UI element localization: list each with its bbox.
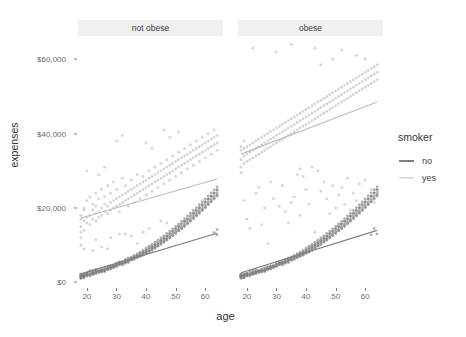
- fit-line-yes: [241, 102, 377, 154]
- x-axis-tick-mark: [176, 288, 177, 291]
- x-axis-tick-label: 30: [272, 292, 281, 301]
- facet-panel: [78, 37, 223, 288]
- legend-line-swatch-icon: [398, 154, 415, 168]
- x-axis-tick-label: 60: [361, 292, 370, 301]
- y-axis-tick-label: $60,000: [8, 55, 66, 64]
- y-axis-tick-mark: [74, 133, 77, 134]
- x-axis-tick-mark: [87, 288, 88, 291]
- fit-line-no: [81, 233, 217, 274]
- x-axis-tick-label: 50: [331, 292, 340, 301]
- x-axis-tick-mark: [247, 288, 248, 291]
- legend-item-yes[interactable]: yes: [398, 169, 464, 186]
- legend: smoker noyes: [398, 131, 464, 186]
- x-axis-tick-label: 40: [142, 292, 151, 301]
- x-axis-tick-mark: [116, 288, 117, 291]
- x-axis-tick-label: 50: [171, 292, 180, 301]
- series-yes: [80, 129, 219, 253]
- series-no: [240, 185, 379, 279]
- y-axis-tick-label: $0: [8, 278, 66, 287]
- y-axis-tick-mark: [74, 59, 77, 60]
- x-axis-tick-label: 20: [82, 292, 91, 301]
- fit-line-no: [241, 230, 377, 272]
- series-yes: [240, 43, 379, 245]
- legend-line-swatch-icon: [398, 171, 415, 185]
- facet-strip-label: obese: [238, 20, 383, 36]
- legend-item-label: no: [422, 156, 432, 166]
- x-axis-tick-mark: [205, 288, 206, 291]
- x-axis-tick-mark: [336, 288, 337, 291]
- legend-entries: noyes: [398, 152, 464, 186]
- x-axis-tick-mark: [365, 288, 366, 291]
- x-axis-tick-label: 40: [302, 292, 311, 301]
- x-axis-tick-label: 60: [201, 292, 210, 301]
- legend-title: smoker: [398, 131, 464, 143]
- x-axis-tick-mark: [146, 288, 147, 291]
- chart-plot-area: expenses $0$20,000$40,000$60,000 not obe…: [0, 0, 466, 337]
- y-axis-tick-label: $40,000: [8, 129, 66, 138]
- series-no: [80, 185, 219, 279]
- facet-strip-label: not obese: [78, 20, 223, 36]
- x-axis-tick-label: 30: [112, 292, 121, 301]
- x-axis-tick-mark: [306, 288, 307, 291]
- legend-item-no[interactable]: no: [398, 152, 464, 169]
- x-axis-tick-mark: [276, 288, 277, 291]
- facet-panel: [238, 37, 383, 288]
- x-axis-tick-label: 20: [242, 292, 251, 301]
- y-axis-tick-mark: [74, 282, 77, 283]
- y-axis-title: expenses: [2, 0, 26, 290]
- y-axis-tick-mark: [74, 208, 77, 209]
- y-axis-tick-label: $20,000: [8, 204, 66, 213]
- legend-item-label: yes: [422, 173, 436, 183]
- x-axis-title: age: [78, 310, 373, 322]
